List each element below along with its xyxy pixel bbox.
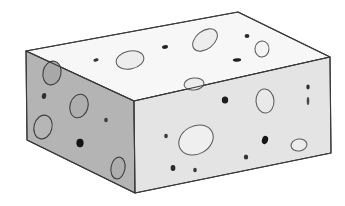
speck-front-4 <box>193 168 197 172</box>
speck-front-2 <box>164 134 168 138</box>
speck-left-2 <box>104 118 108 122</box>
speck-top-3 <box>245 34 250 38</box>
cheese-block-illustration <box>0 0 345 206</box>
speck-left-3 <box>76 139 83 147</box>
speck-front-1 <box>222 96 228 103</box>
speck-front-7 <box>306 85 309 90</box>
speck-front-6 <box>244 154 248 159</box>
illustration-stage <box>0 0 345 206</box>
speck-front-3 <box>171 165 176 171</box>
speck-front-8 <box>307 97 310 105</box>
